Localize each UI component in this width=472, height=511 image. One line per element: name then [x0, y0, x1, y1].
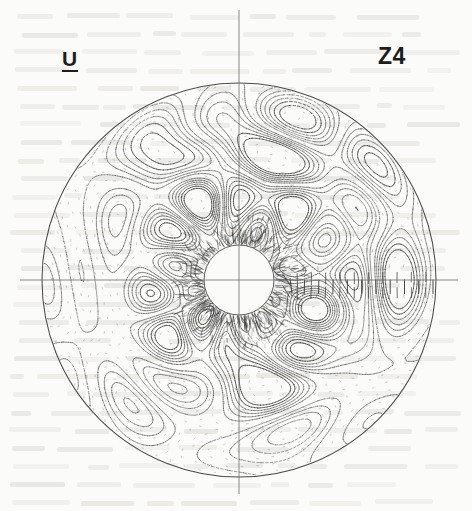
case-label-z4: Z4 [378, 45, 406, 68]
polar-contour-vector-figure [0, 0, 472, 511]
field-label-u: U [62, 48, 78, 72]
